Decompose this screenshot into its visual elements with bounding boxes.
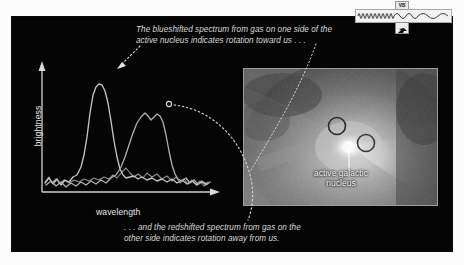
visible-band-tab: VIS xyxy=(395,1,409,10)
spectrum-plot: brightness wavelength xyxy=(12,17,242,251)
caption-blueshifted: The blueshifted spectrum from gas on one… xyxy=(136,24,366,46)
em-spectrum-bar xyxy=(355,9,452,23)
x-axis-label: wavelength xyxy=(96,207,140,217)
long-wavelength-waves xyxy=(418,14,448,19)
caption-redshifted: . . . and the redshifted spectrum from g… xyxy=(124,222,354,244)
continuum-curve xyxy=(45,168,208,186)
short-wavelength-waves xyxy=(358,14,394,19)
visible-band-pointer xyxy=(395,22,409,34)
redshifted-peak-curve xyxy=(46,113,210,187)
em-spectrum-strip: VIS xyxy=(355,0,452,30)
blueshifted-peak-curve xyxy=(45,84,207,185)
mid-wavelength-waves xyxy=(394,14,418,19)
x-axis xyxy=(42,189,220,196)
y-axis-label: brightness xyxy=(33,93,43,159)
agn-label: active galactic nucleus xyxy=(285,168,397,189)
figure-root: brightness wavelength xyxy=(0,0,464,265)
